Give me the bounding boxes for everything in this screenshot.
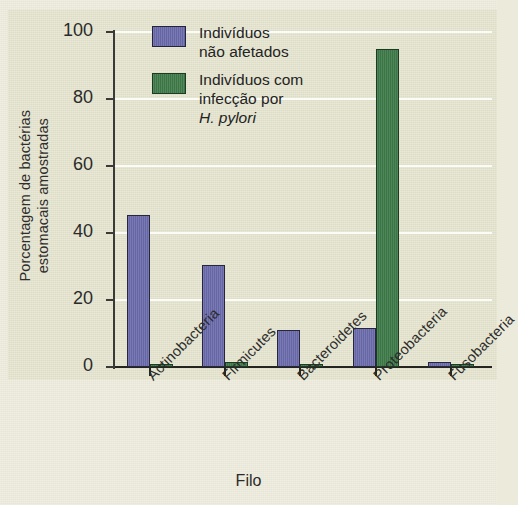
- bar: [353, 328, 376, 367]
- y-axis-tick: 80: [106, 98, 115, 100]
- legend-label: Indivíduos cominfecção porH. pylori: [199, 71, 303, 128]
- bar: [376, 49, 399, 367]
- gridline: [115, 232, 492, 234]
- y-axis-title: Porcentagem de bactérias estomacais amos…: [17, 36, 52, 356]
- legend-item: Indivíduosnão afetados: [152, 24, 303, 62]
- y-axis-tick-label: 100: [63, 20, 93, 41]
- gridline: [115, 165, 492, 167]
- species-name: H. pylori: [199, 109, 256, 126]
- gridline: [115, 299, 492, 301]
- y-axis-tick: 60: [106, 165, 115, 167]
- legend: Indivíduosnão afetadosIndivíduos cominfe…: [152, 24, 303, 137]
- y-axis-tick-label: 40: [73, 221, 93, 242]
- y-axis-tick-label: 0: [83, 355, 93, 376]
- legend-swatch: [152, 26, 186, 47]
- legend-item: Indivíduos cominfecção porH. pylori: [152, 71, 303, 128]
- x-axis-title: Filo: [0, 472, 497, 490]
- legend-label: Indivíduosnão afetados: [199, 24, 289, 62]
- bar: [277, 330, 300, 367]
- y-axis-tick: 100: [106, 31, 115, 33]
- bar: [127, 215, 150, 367]
- y-axis-tick: 0: [106, 366, 115, 368]
- bar: [428, 362, 451, 367]
- y-axis-tick-label: 60: [73, 154, 93, 175]
- y-axis-tick: 40: [106, 232, 115, 234]
- y-axis-tick-label: 80: [73, 87, 93, 108]
- y-axis-tick-label: 20: [73, 288, 93, 309]
- y-axis-tick: 20: [106, 299, 115, 301]
- legend-swatch: [152, 73, 186, 94]
